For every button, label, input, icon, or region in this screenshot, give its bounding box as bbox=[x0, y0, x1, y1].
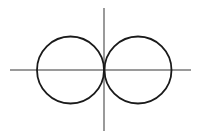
figure-root bbox=[0, 0, 206, 139]
plot-canvas bbox=[0, 0, 206, 139]
